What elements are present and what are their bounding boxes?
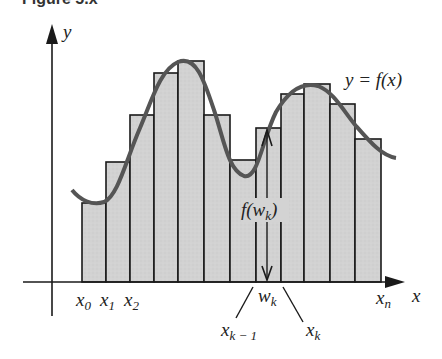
height-label: f(wk) (241, 199, 277, 223)
tick-label-x2: x2 (123, 289, 139, 313)
riemann-rectangle (304, 84, 330, 282)
tick-label-x1: x1 (99, 289, 115, 313)
riemann-rectangle (178, 61, 204, 282)
x-axis-arrow-icon (385, 276, 405, 288)
tick-label-xn: xn (375, 287, 391, 311)
tick-label-xk-minus-1: xk − 1 (220, 319, 257, 343)
riemann-rectangle (82, 203, 106, 282)
y-axis-arrow-icon (46, 24, 58, 44)
riemann-rectangle (281, 94, 304, 282)
riemann-rectangle (355, 139, 381, 282)
leader-line-xk (283, 287, 303, 322)
riemann-rectangle (154, 73, 178, 282)
leader-line-xk-1 (236, 287, 253, 318)
riemann-sum-diagram: Figure 5.x y x y = f(x) f(wk) x0 x1 x2 w… (0, 0, 442, 359)
tick-label-wk: wk (258, 285, 277, 309)
y-axis-label: y (61, 21, 72, 42)
curve-label: y = f(x) (343, 69, 402, 91)
figure-title: Figure 5.x (22, 0, 98, 7)
tick-label-x0: x0 (75, 289, 91, 313)
tick-label-xk: xk (305, 319, 320, 343)
riemann-rectangle (330, 104, 355, 282)
riemann-rectangles (82, 61, 381, 282)
x-axis-label: x (411, 285, 421, 306)
riemann-rectangle (204, 115, 230, 282)
